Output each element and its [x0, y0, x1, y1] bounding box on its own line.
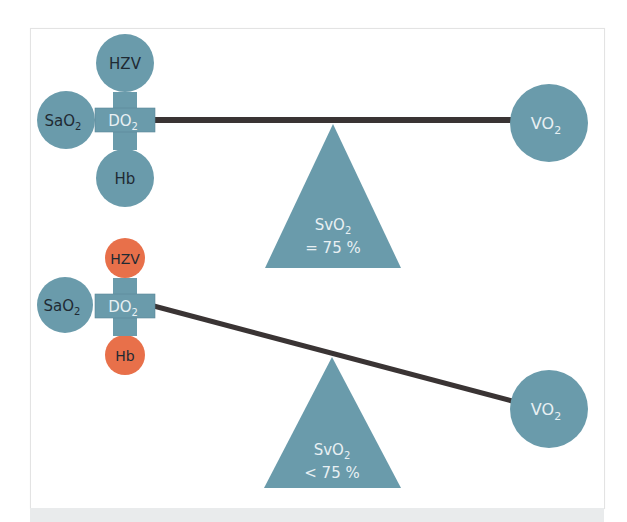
- hzv-label: HZV: [109, 55, 142, 73]
- oxygen-balance-diagram: SvO2 = 75 % VO2 HZV SaO2 Hb DO2 SvO2 < 7…: [0, 0, 627, 522]
- balance-beam: [150, 117, 516, 123]
- fulcrum-label-line2: = 75 %: [305, 239, 360, 257]
- panel-imbalanced: SvO2 < 75 % VO2 HZV SaO2 Hb DO2: [37, 238, 588, 488]
- hzv-label: HZV: [110, 251, 140, 267]
- hb-label: Hb: [115, 170, 136, 188]
- hb-label: Hb: [115, 348, 135, 364]
- fulcrum-label-line2: < 75 %: [304, 464, 359, 482]
- panel-balanced: SvO2 = 75 % VO2 HZV SaO2 Hb DO2: [37, 34, 588, 268]
